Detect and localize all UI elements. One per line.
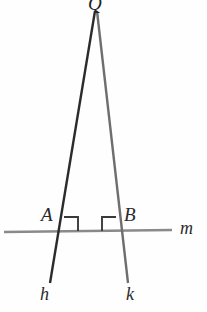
label-line-h: h	[40, 285, 49, 303]
right-angle-marker-b	[102, 217, 116, 231]
line-h	[50, 11, 95, 283]
label-line-k: k	[126, 285, 134, 303]
line-k	[97, 11, 128, 283]
label-point-b: B	[124, 205, 136, 224]
figure-canvas	[0, 0, 207, 312]
geometry-figure: Q A B h k m	[0, 0, 207, 312]
right-angle-marker-a	[64, 217, 78, 231]
label-point-a: A	[41, 205, 53, 224]
line-m	[4, 230, 172, 232]
label-line-m: m	[180, 219, 193, 237]
label-apex-q: Q	[88, 0, 102, 13]
